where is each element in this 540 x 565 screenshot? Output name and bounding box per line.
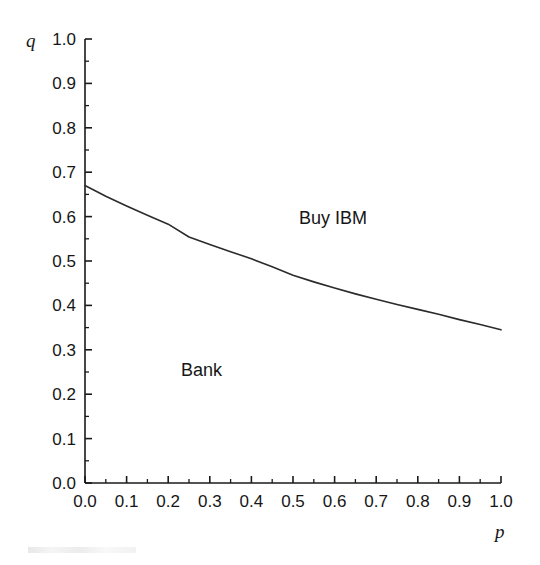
x-tick-label: 0.5 xyxy=(281,493,305,510)
y-axis-title: q xyxy=(26,30,36,52)
plot-area xyxy=(0,0,540,565)
y-tick-label: 0.2 xyxy=(26,386,76,403)
x-tick-label: 0.0 xyxy=(73,493,97,510)
y-tick-label: 0.9 xyxy=(26,75,76,92)
x-axis-title: p xyxy=(495,521,505,543)
y-tick-label: 0.7 xyxy=(26,164,76,181)
y-tick-label: 0.0 xyxy=(26,475,76,492)
x-tick-label: 1.0 xyxy=(489,493,513,510)
scan-artifact xyxy=(28,547,136,553)
x-tick-label: 0.9 xyxy=(448,493,472,510)
x-tick-label: 0.2 xyxy=(156,493,180,510)
y-tick-label: 0.8 xyxy=(26,119,76,136)
y-tick-label: 0.4 xyxy=(26,297,76,314)
axis-ticks xyxy=(85,39,501,483)
axes-lines xyxy=(85,39,501,483)
x-tick-label: 0.4 xyxy=(240,493,264,510)
x-tick-label: 0.6 xyxy=(323,493,347,510)
region-label-bank: Bank xyxy=(181,360,222,381)
region-label-buy-ibm: Buy IBM xyxy=(299,208,367,229)
y-tick-label: 0.3 xyxy=(26,341,76,358)
x-tick-label: 0.1 xyxy=(115,493,139,510)
x-tick-label: 0.7 xyxy=(364,493,388,510)
figure-canvas: 0.00.10.20.30.40.50.60.70.80.91.0 0.00.1… xyxy=(0,0,540,565)
y-tick-label: 0.5 xyxy=(26,253,76,270)
y-tick-label: 0.1 xyxy=(26,430,76,447)
x-tick-label: 0.8 xyxy=(406,493,430,510)
boundary-curve xyxy=(85,186,501,330)
x-tick-label: 0.3 xyxy=(198,493,222,510)
y-tick-label: 0.6 xyxy=(26,208,76,225)
